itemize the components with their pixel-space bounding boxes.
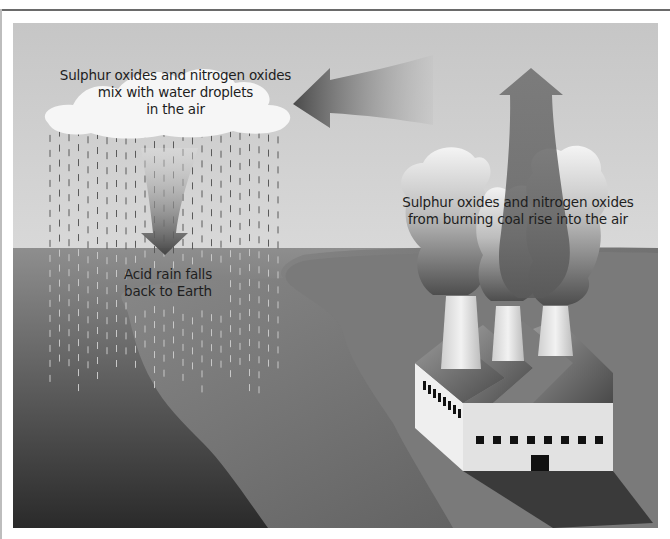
factory-label-line-2: from burning coal rise into the air	[393, 211, 643, 228]
rain-label: Acid rain falls back to Earth	[113, 266, 223, 300]
rain-label-line-2: back to Earth	[113, 283, 223, 300]
factory-label: Sulphur oxides and nitrogen oxides from …	[393, 194, 643, 228]
cloud-label-line-3: in the air	[53, 101, 298, 118]
cloud-label: Sulphur oxides and nitrogen oxides mix w…	[53, 67, 298, 118]
cloud-label-line-1: Sulphur oxides and nitrogen oxides	[53, 67, 298, 84]
acid-rain-diagram: Sulphur oxides and nitrogen oxides mix w…	[13, 23, 658, 528]
rain-label-line-1: Acid rain falls	[113, 266, 223, 283]
frame-top-border	[0, 9, 670, 11]
frame-left-border	[0, 9, 2, 539]
factory-label-line-1: Sulphur oxides and nitrogen oxides	[393, 194, 643, 211]
cloud-label-line-2: mix with water droplets	[53, 84, 298, 101]
